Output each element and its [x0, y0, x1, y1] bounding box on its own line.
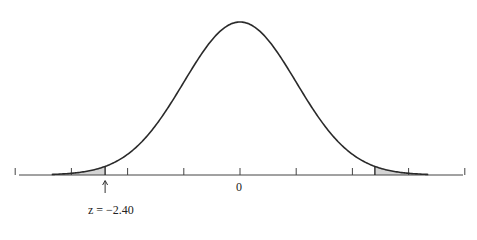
z-value-label: z = −2.40	[88, 203, 134, 218]
z-arrow-icon	[103, 181, 108, 194]
normal-curve	[52, 22, 429, 174]
tick-label-zero: 0	[236, 180, 242, 195]
